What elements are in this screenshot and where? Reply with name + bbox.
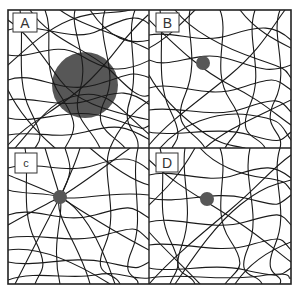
particle-small-c	[53, 190, 67, 204]
panel-c: c	[8, 148, 149, 284]
panel-a-label: A	[20, 15, 30, 31]
panel-b: B	[149, 10, 291, 148]
panel-d-label: D	[162, 155, 172, 171]
particle-small-d	[200, 192, 214, 206]
particle-small-b	[196, 56, 210, 70]
panel-c-label: c	[23, 157, 29, 169]
panel-a: A	[8, 10, 150, 148]
panel-b-label: B	[163, 15, 172, 31]
mesh-particle-figure: A B	[0, 0, 298, 291]
panel-d: D	[149, 148, 291, 284]
